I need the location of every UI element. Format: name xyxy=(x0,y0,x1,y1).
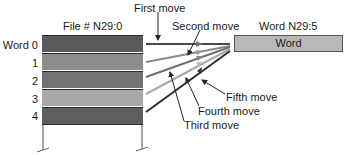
move-lines xyxy=(0,0,346,155)
